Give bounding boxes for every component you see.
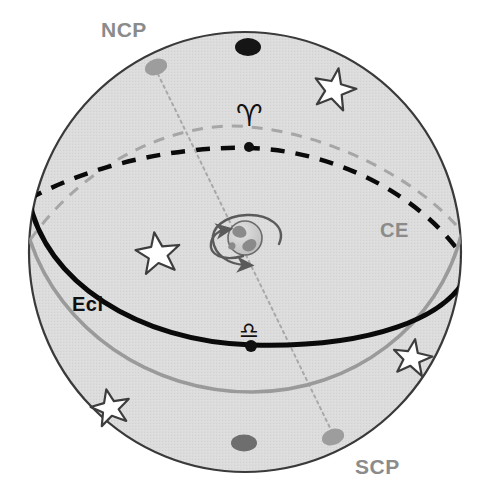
celestial-sphere-diagram: NCP SCP CE Ecl ♈ ♎ xyxy=(0,0,490,498)
aries-symbol: ♈ xyxy=(236,101,263,131)
north-ecliptic-pole-dot xyxy=(235,38,261,56)
sphere-drawing xyxy=(0,0,490,498)
label-ecliptic: Ecl xyxy=(72,293,104,316)
libra-symbol: ♎ xyxy=(239,320,259,342)
south-ecliptic-pole-dot xyxy=(231,435,257,452)
label-north-celestial-pole: NCP xyxy=(101,18,147,42)
label-south-celestial-pole: SCP xyxy=(355,455,400,479)
vernal-equinox-point xyxy=(244,142,254,152)
label-celestial-equator: CE xyxy=(380,219,409,242)
